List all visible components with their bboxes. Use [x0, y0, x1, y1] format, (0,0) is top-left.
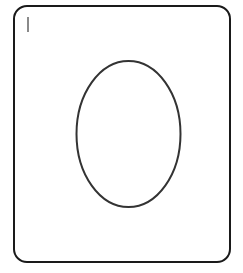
ellipse-shape[interactable]	[77, 61, 181, 207]
drawing-canvas[interactable]	[0, 0, 243, 273]
